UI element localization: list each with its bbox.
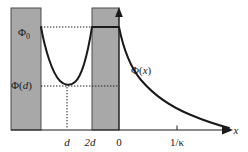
well-curve — [41, 27, 92, 85]
tick-label-inv-kappa: 1/κ — [170, 136, 185, 148]
tick-label-2d: 2d — [85, 136, 97, 148]
phi-d-label: Φ(d) — [11, 79, 32, 92]
x-axis-label: x — [233, 124, 239, 136]
tick-label-d: d — [64, 136, 70, 148]
figure-canvas: Φ0 Φ(d) Φ(x) d 2d 0 1/κ x — [0, 0, 248, 152]
potential-profile-figure: Φ0 Φ(d) Φ(x) d 2d 0 1/κ x — [0, 0, 248, 152]
tick-label-0: 0 — [116, 136, 122, 148]
decay-curve — [119, 27, 229, 128]
phi-x-curve-label: Φ(x) — [131, 64, 152, 77]
